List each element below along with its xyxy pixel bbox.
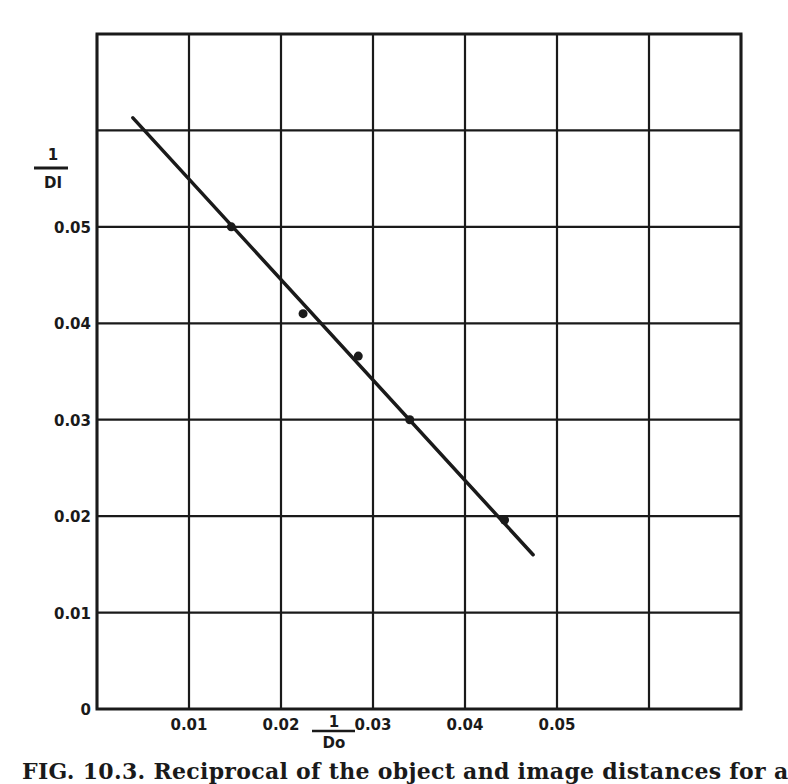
data-point — [299, 309, 308, 318]
data-point — [405, 415, 414, 424]
figure-caption: FIG. 10.3. Reciprocal of the object and … — [22, 758, 788, 784]
y-tick-label: 0.02 — [54, 508, 91, 526]
y-tick-label: 0 — [81, 701, 91, 719]
x-axis-tick-labels: 0.010.020.030.040.05 — [170, 716, 575, 734]
x-axis-label: 1 Do — [312, 713, 355, 752]
grid — [97, 34, 741, 709]
fitted-line-segment — [133, 118, 533, 555]
data-point — [354, 352, 363, 361]
y-tick-label: 0.05 — [54, 219, 91, 237]
y-tick-label: 0.01 — [54, 605, 91, 623]
x-tick-label: 0.05 — [538, 716, 575, 734]
y-tick-label: 0.03 — [54, 412, 91, 430]
x-axis-label-denominator: Do — [323, 734, 346, 752]
x-tick-label: 0.03 — [354, 716, 391, 734]
y-axis-tick-labels: 00.010.020.030.040.05 — [54, 219, 91, 719]
data-point — [500, 516, 509, 525]
data-point — [227, 222, 236, 231]
y-tick-label: 0.04 — [54, 315, 91, 333]
fitted-line — [133, 118, 533, 555]
y-axis-label-numerator: 1 — [48, 146, 58, 164]
x-tick-label: 0.04 — [446, 716, 483, 734]
y-axis-label-denominator: DI — [44, 174, 62, 192]
x-tick-label: 0.02 — [262, 716, 299, 734]
plot-frame — [97, 34, 741, 709]
plot-border — [97, 34, 741, 709]
x-axis-label-numerator: 1 — [329, 713, 339, 731]
x-tick-label: 0.01 — [170, 716, 207, 734]
y-axis-label: 1 DI — [34, 146, 68, 192]
